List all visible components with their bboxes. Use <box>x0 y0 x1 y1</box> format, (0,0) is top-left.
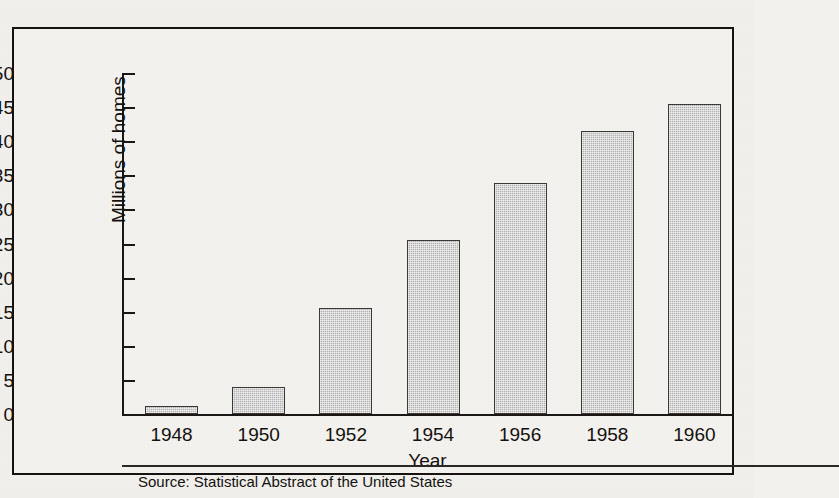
x-tick-label-1958: 1958 <box>564 425 651 444</box>
y-tick-15 <box>122 312 135 314</box>
bar-1950 <box>232 387 285 414</box>
y-tick-50 <box>122 73 135 75</box>
x-tick-label-1952: 1952 <box>302 425 389 444</box>
x-tick-label-1960: 1960 <box>651 425 738 444</box>
bar-1952 <box>319 308 372 414</box>
x-axis-line <box>122 414 733 416</box>
y-tick-label-40: 40 <box>0 132 14 151</box>
bar-1954 <box>407 240 460 414</box>
y-tick-label-15: 15 <box>0 303 14 322</box>
x-tick-label-1954: 1954 <box>389 425 476 444</box>
source-note: Source: Statistical Abstract of the Unit… <box>138 473 452 490</box>
bar-1956 <box>494 183 547 414</box>
y-tick-35 <box>122 175 135 177</box>
y-tick-label-30: 30 <box>0 200 14 219</box>
bar-1960 <box>668 104 721 414</box>
x-axis-title: Year <box>122 450 733 472</box>
y-tick-20 <box>122 278 135 280</box>
chart-frame: Millions of homes 05101520253035404550 1… <box>12 27 734 475</box>
y-tick-5 <box>122 380 135 382</box>
y-tick-label-0: 0 <box>0 405 14 424</box>
y-tick-label-5: 5 <box>0 371 14 390</box>
x-tick-label-1950: 1950 <box>215 425 302 444</box>
y-tick-label-10: 10 <box>0 337 14 356</box>
y-tick-30 <box>122 209 135 211</box>
bar-1958 <box>581 131 634 414</box>
y-tick-label-50: 50 <box>0 64 14 83</box>
source-divider <box>122 465 839 467</box>
y-tick-40 <box>122 141 135 143</box>
x-tick-label-1956: 1956 <box>477 425 564 444</box>
y-tick-25 <box>122 244 135 246</box>
y-tick-label-25: 25 <box>0 235 14 254</box>
bar-1948 <box>145 406 198 414</box>
y-tick-label-35: 35 <box>0 166 14 185</box>
y-tick-10 <box>122 346 135 348</box>
plot-area: Millions of homes 05101520253035404550 1… <box>122 73 732 415</box>
x-tick-label-1948: 1948 <box>128 425 215 444</box>
y-axis-title: Millions of homes <box>108 76 130 223</box>
y-tick-label-45: 45 <box>0 98 14 117</box>
chart-title <box>0 0 753 5</box>
y-tick-0 <box>122 414 135 416</box>
y-tick-label-20: 20 <box>0 269 14 288</box>
y-tick-45 <box>122 107 135 109</box>
